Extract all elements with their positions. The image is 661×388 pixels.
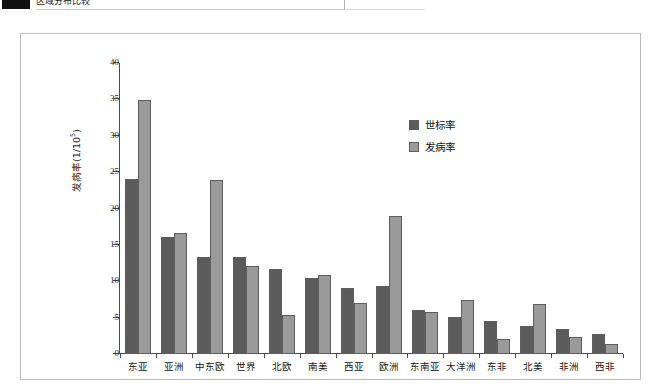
y-axis-tick-label: 20: [81, 204, 119, 213]
bar-group: [412, 63, 438, 354]
y-axis-tick-label: 40: [81, 58, 119, 67]
caption-rule-left: [36, 9, 344, 10]
bar-group: [448, 63, 474, 354]
bar-世标率-欧洲[interactable]: [376, 286, 389, 354]
document-caption-strip: 区域分布比较: [0, 0, 661, 12]
legend-swatch-icon: [409, 120, 419, 130]
y-axis-tick-label: 25: [81, 167, 119, 176]
x-axis-tick: [407, 354, 408, 358]
bar-世标率-东非[interactable]: [484, 321, 497, 354]
x-axis-label-欧洲: 欧洲: [372, 361, 408, 372]
y-axis-tick-label-text: 20: [93, 204, 119, 213]
chart-frame: 发病率(1/105) 0510152025303540 东亚亚洲中东欧世界北欧南…: [20, 33, 641, 380]
x-axis-tick: [228, 354, 229, 358]
x-axis-label-中东欧: 中东欧: [192, 361, 228, 372]
bar-发病率-世界[interactable]: [246, 266, 259, 354]
x-axis-tick: [264, 354, 265, 358]
caption-color-swatch: [2, 0, 30, 9]
y-axis-tick-label-text: 40: [93, 58, 119, 67]
bar-发病率-北美[interactable]: [533, 304, 546, 354]
y-axis-tick-label: 15: [81, 240, 119, 249]
bar-group: [233, 63, 259, 354]
bar-发病率-北欧[interactable]: [282, 315, 295, 354]
x-axis-label-西亚: 西亚: [336, 361, 372, 372]
x-axis-label-东亚: 东亚: [120, 361, 156, 372]
bar-世标率-西非[interactable]: [592, 334, 605, 354]
y-axis-title-exponent: 5: [69, 133, 77, 137]
x-axis-tick: [192, 354, 193, 358]
bar-发病率-欧洲[interactable]: [389, 216, 402, 354]
legend-item-发病率[interactable]: 发病率: [409, 136, 455, 158]
bar-世标率-世界[interactable]: [233, 257, 246, 354]
y-axis-title: 发病率(1/105): [68, 101, 81, 221]
legend-label: 世标率: [425, 119, 455, 131]
bar-发病率-东非[interactable]: [497, 339, 510, 354]
chart-legend: 世标率发病率: [409, 114, 455, 158]
y-axis-tick-label: 10: [81, 276, 119, 285]
bar-发病率-东亚[interactable]: [138, 100, 151, 354]
y-axis-tick-label: 35: [81, 94, 119, 103]
x-axis-tick: [551, 354, 552, 358]
bar-group: [125, 63, 151, 354]
bar-世标率-东南亚[interactable]: [412, 310, 425, 354]
y-axis-tick-label: 0: [81, 349, 119, 358]
y-axis-tick-label-text: 0: [93, 349, 119, 358]
bar-世标率-中东欧[interactable]: [197, 257, 210, 354]
bar-group: [197, 63, 223, 354]
y-axis-tick-label: 30: [81, 131, 119, 140]
bar-发病率-亚洲[interactable]: [174, 233, 187, 354]
bar-世标率-亚洲[interactable]: [161, 237, 174, 354]
x-axis-label-东非: 东非: [479, 361, 515, 372]
x-axis-tick: [156, 354, 157, 358]
y-axis-title-tail: ): [71, 129, 82, 133]
x-axis-label-非洲: 非洲: [551, 361, 587, 372]
x-axis-tick: [515, 354, 516, 358]
y-axis-tick-label: 5: [81, 313, 119, 322]
legend-item-世标率[interactable]: 世标率: [409, 114, 455, 136]
x-axis-label-北欧: 北欧: [264, 361, 300, 372]
bar-group: [520, 63, 546, 354]
bar-发病率-非洲[interactable]: [569, 337, 582, 354]
bar-group: [556, 63, 582, 354]
x-axis-label-南美: 南美: [300, 361, 336, 372]
x-axis-tick: [120, 354, 121, 358]
x-axis-label-大洋洲: 大洋洲: [443, 361, 479, 372]
bar-发病率-东南亚[interactable]: [425, 312, 438, 354]
bar-世标率-南美[interactable]: [305, 278, 318, 354]
caption-rule-right: [345, 9, 425, 10]
bar-group: [269, 63, 295, 354]
x-axis-tick: [300, 354, 301, 358]
plot-area: 发病率(1/105) 0510152025303540 东亚亚洲中东欧世界北欧南…: [21, 34, 642, 381]
bar-发病率-西非[interactable]: [605, 344, 618, 354]
y-axis-tick-label-text: 30: [93, 131, 119, 140]
bar-series-container: [120, 63, 623, 354]
bar-世标率-非洲[interactable]: [556, 329, 569, 354]
caption-text: 区域分布比较: [36, 0, 90, 7]
y-axis-tick-label-text: 10: [93, 276, 119, 285]
bar-group: [161, 63, 187, 354]
y-axis-tick-label-text: 25: [93, 167, 119, 176]
bar-group: [376, 63, 402, 354]
y-axis-tick-label-text: 35: [93, 94, 119, 103]
bar-group: [592, 63, 618, 354]
x-axis-tick: [479, 354, 480, 358]
bar-发病率-大洋洲[interactable]: [461, 300, 474, 354]
bar-group: [341, 63, 367, 354]
bar-世标率-北美[interactable]: [520, 326, 533, 354]
bar-世标率-西亚[interactable]: [341, 288, 354, 354]
y-axis-title-main: 发病率(1/10: [71, 137, 82, 192]
bar-世标率-北欧[interactable]: [269, 269, 282, 354]
x-axis-tick: [336, 354, 337, 358]
bar-世标率-东亚[interactable]: [125, 179, 138, 354]
bar-发病率-西亚[interactable]: [354, 303, 367, 354]
bar-group: [484, 63, 510, 354]
x-axis-label-西非: 西非: [587, 361, 623, 372]
x-axis-tick: [443, 354, 444, 358]
bar-发病率-南美[interactable]: [318, 275, 331, 354]
x-axis-label-北美: 北美: [515, 361, 551, 372]
x-axis-label-世界: 世界: [228, 361, 264, 372]
x-axis-tick: [372, 354, 373, 358]
x-axis-label-亚洲: 亚洲: [156, 361, 192, 372]
bar-世标率-大洋洲[interactable]: [448, 317, 461, 354]
bar-发病率-中东欧[interactable]: [210, 180, 223, 354]
